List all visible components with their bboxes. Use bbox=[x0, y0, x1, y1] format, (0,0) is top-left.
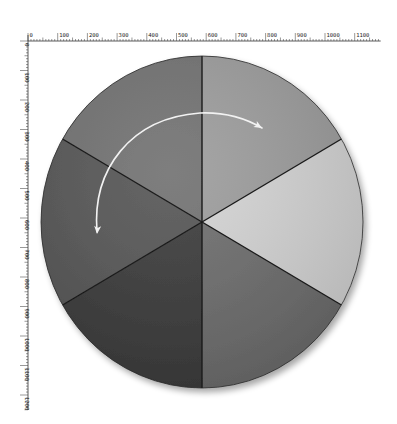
ruler-label: 900 bbox=[24, 309, 30, 319]
ruler-label: 0 bbox=[30, 32, 33, 38]
ruler-label: 1000 bbox=[24, 338, 30, 351]
ruler-label: 300 bbox=[24, 132, 30, 142]
ruler-label: 100 bbox=[24, 73, 30, 83]
ruler-label: 1100 bbox=[24, 368, 30, 381]
diagram-canvas: 010020030040050060070080090010001100 010… bbox=[0, 0, 397, 424]
vertical-ruler[interactable]: 0100200300400500600700800900100011001200 bbox=[20, 35, 30, 410]
ruler-label: 200 bbox=[24, 102, 30, 112]
ruler-label: 100 bbox=[59, 32, 69, 38]
ruler-label: 500 bbox=[178, 32, 188, 38]
ruler-label: 1100 bbox=[356, 32, 369, 38]
ruler-label: 800 bbox=[24, 279, 30, 289]
ruler-label: 600 bbox=[208, 32, 218, 38]
ruler-label: 0 bbox=[24, 43, 30, 46]
ruler-label: 500 bbox=[24, 191, 30, 201]
ruler-label: 1000 bbox=[327, 32, 340, 38]
ruler-label: 1200 bbox=[24, 397, 30, 410]
ruler-label: 300 bbox=[119, 32, 129, 38]
ruler-label: 700 bbox=[24, 250, 30, 260]
ruler-label: 600 bbox=[24, 220, 30, 230]
ruler-label: 800 bbox=[267, 32, 277, 38]
pie-chart[interactable] bbox=[41, 56, 363, 388]
ruler-label: 900 bbox=[297, 32, 307, 38]
ruler-label: 400 bbox=[148, 32, 158, 38]
horizontal-ruler[interactable]: 010020030040050060070080090010001100 bbox=[28, 32, 381, 41]
ruler-label: 700 bbox=[237, 32, 247, 38]
ruler-label: 400 bbox=[24, 161, 30, 171]
ruler-label: 200 bbox=[89, 32, 99, 38]
